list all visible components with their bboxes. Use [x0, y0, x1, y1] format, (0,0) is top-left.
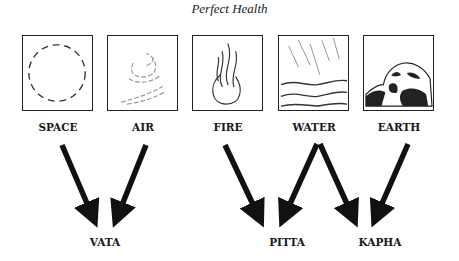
- arrow-earth-to-kapha: [377, 144, 408, 215]
- arrow-air-to-vata: [118, 145, 146, 215]
- arrow-water-to-kapha: [320, 144, 352, 215]
- dosha-label-kapha: KAPHA: [340, 236, 420, 248]
- arrow-fire-to-pitta: [225, 145, 258, 215]
- dosha-label-pitta: PITTA: [247, 236, 327, 248]
- dosha-label-vata: VATA: [65, 236, 145, 248]
- arrow-space-to-vata: [62, 145, 92, 215]
- arrow-water-to-pitta: [285, 144, 317, 215]
- dosha-arrows: [0, 0, 459, 261]
